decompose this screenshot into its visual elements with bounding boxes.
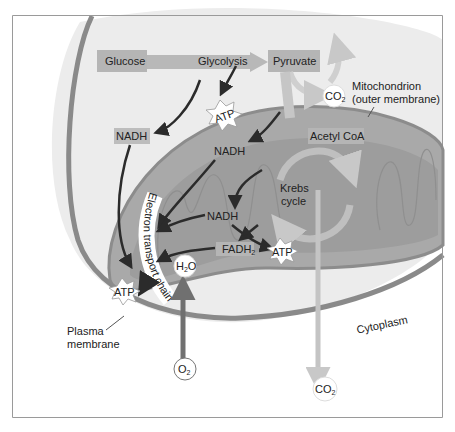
- glucose-label: Glucose: [105, 55, 145, 67]
- fadh2-label: FADH2: [222, 243, 255, 256]
- acetyl-coa-label: Acetyl CoA: [310, 130, 365, 142]
- nadh-matrix-label: NADH: [214, 145, 245, 157]
- nadh-cytoplasm-label: NADH: [116, 130, 147, 142]
- plasma-label-1: Plasma: [67, 325, 105, 337]
- glycolysis-label: Glycolysis: [198, 55, 248, 67]
- krebs-label-2: cycle: [281, 195, 306, 207]
- pyruvate-label: Pyruvate: [273, 55, 316, 67]
- cytoplasm-label: Cytoplasm: [355, 313, 408, 336]
- atp-label-krebs: ATP: [272, 246, 293, 258]
- mito-label-1: Mitochondrion: [352, 80, 421, 92]
- krebs-label-1: Krebs: [280, 182, 309, 194]
- pyruvate-to-acetyl-band: [285, 72, 290, 118]
- cellular-respiration-diagram: Glucose Glycolysis Pyruvate CO2 Acetyl C…: [0, 0, 455, 432]
- mito-label-2: (outer membrane): [352, 93, 440, 105]
- nadh-krebs-label: NADH: [207, 210, 238, 222]
- plasma-leader: [106, 316, 124, 330]
- atp-label-etc: ATP: [114, 286, 135, 298]
- plasma-label-2: membrane: [67, 338, 120, 350]
